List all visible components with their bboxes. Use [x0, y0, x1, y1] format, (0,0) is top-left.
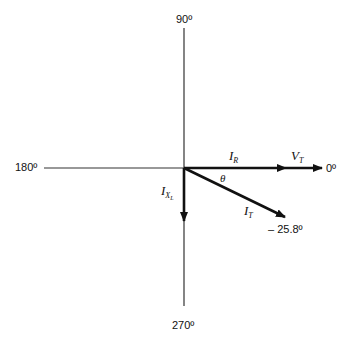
total-current-angle-label: – 25.8º	[268, 224, 303, 235]
phasor-diagram: 90º 180º 0º 270º IR VT IXL IT θ – 25.8º	[0, 0, 354, 337]
subscript: T	[248, 211, 252, 220]
label-inductive-current: IXL	[161, 184, 174, 201]
label-total-voltage: VT	[291, 149, 303, 165]
subscript: T	[299, 156, 303, 165]
sub-subscript: L	[170, 195, 173, 201]
label-resistive-current: IR	[229, 149, 238, 165]
angle-theta-label: θ	[220, 173, 225, 184]
axis-label-90: 90º	[176, 14, 192, 25]
axis-label-180: 180º	[15, 162, 37, 173]
axis-label-270: 270º	[172, 320, 194, 331]
symbol: V	[291, 148, 299, 163]
phasor-diagram-svg	[0, 0, 354, 337]
label-total-current: IT	[244, 204, 253, 220]
axis-label-0: 0º	[326, 163, 336, 174]
subscript: R	[233, 156, 238, 165]
total-current-vector	[184, 168, 285, 217]
